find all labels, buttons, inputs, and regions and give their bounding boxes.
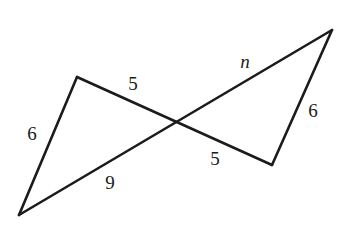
label-n: n — [240, 52, 250, 71]
segment-long-upper-diagonal — [77, 77, 272, 165]
geometry-figure: 6 5 n 6 5 9 — [0, 0, 348, 228]
label-6-right: 6 — [308, 101, 318, 120]
segment-long-lower-diagonal — [19, 30, 332, 215]
segment-left-short-side — [19, 77, 77, 215]
label-9: 9 — [105, 173, 115, 192]
segment-right-short-side — [272, 30, 332, 165]
label-5-lower: 5 — [210, 149, 220, 168]
label-5-upper: 5 — [128, 74, 138, 93]
figure-canvas — [0, 0, 348, 228]
label-6-left: 6 — [27, 124, 37, 143]
